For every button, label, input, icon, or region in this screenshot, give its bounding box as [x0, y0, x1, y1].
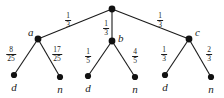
leaf-d-1-dot	[11, 72, 17, 78]
edge-label-root-c: 1 3	[157, 12, 163, 29]
edge-label-root-a: 1 3	[65, 12, 71, 29]
edge-label-b-d: 1 5	[85, 48, 91, 65]
root-node-dot	[109, 6, 116, 13]
node-b-dot	[109, 38, 116, 45]
node-c-label: c	[195, 27, 200, 38]
fraction-denominator: 5	[132, 56, 138, 65]
leaf-n-1-label: n	[57, 84, 63, 95]
fraction-denominator: 3	[65, 20, 71, 29]
leaf-n-3-label: n	[208, 84, 214, 95]
fraction-numerator: 1	[65, 12, 71, 20]
edge-label-a-n: 17 25	[52, 46, 62, 63]
fraction-numerator: 2	[206, 46, 212, 54]
node-a-label: a	[28, 27, 34, 38]
fraction-denominator: 3	[103, 28, 109, 37]
edge-label-root-b: 1 3	[103, 20, 109, 37]
leaf-n-2-label: n	[132, 84, 138, 95]
edge-label-c-d: 1 3	[161, 46, 167, 63]
fraction-denominator: 3	[161, 54, 167, 63]
edge-label-b-n: 4 5	[132, 48, 138, 65]
fraction-denominator: 25	[6, 54, 16, 63]
fraction-denominator: 3	[157, 20, 163, 29]
leaf-d-3-dot	[162, 72, 168, 78]
fraction-numerator: 8	[6, 46, 16, 54]
probability-tree-diagram: 1 3 1 3 1 3 a b c 8 25 17 25 1 5 4 5 1 3…	[0, 0, 224, 98]
node-c-dot	[186, 36, 193, 43]
edge-line-b-d	[88, 41, 112, 76]
leaf-n-1-dot	[57, 74, 63, 80]
fraction-numerator: 1	[157, 12, 163, 20]
fraction-denominator: 5	[85, 56, 91, 65]
node-a-dot	[35, 36, 42, 43]
fraction-numerator: 1	[85, 48, 91, 56]
fraction-numerator: 1	[103, 20, 109, 28]
edge-line-a-d	[14, 39, 38, 75]
leaf-d-2-dot	[85, 73, 91, 79]
fraction-numerator: 1	[161, 46, 167, 54]
edge-label-c-n: 2 3	[206, 46, 212, 63]
fraction-numerator: 4	[132, 48, 138, 56]
edge-label-a-d: 8 25	[6, 46, 16, 63]
edge-line-root-a	[38, 9, 112, 39]
leaf-n-3-dot	[208, 74, 214, 80]
leaf-d-2-label: d	[85, 83, 91, 94]
fraction-numerator: 17	[52, 46, 62, 54]
leaf-d-1-label: d	[11, 82, 17, 93]
leaf-d-3-label: d	[162, 82, 168, 93]
fraction-denominator: 3	[206, 54, 212, 63]
fraction-denominator: 25	[52, 54, 62, 63]
leaf-n-2-dot	[132, 74, 138, 80]
tree-edges-svg	[0, 0, 224, 98]
edge-line-c-d	[165, 39, 189, 75]
node-b-label: b	[118, 33, 124, 44]
